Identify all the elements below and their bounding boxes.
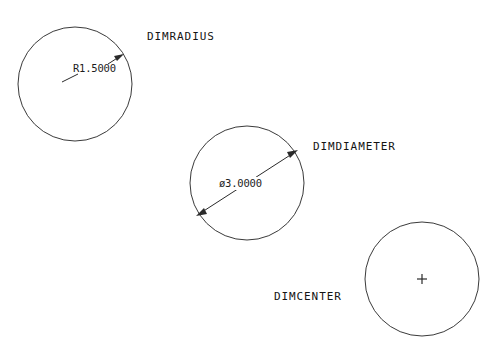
radius-circle <box>18 27 132 141</box>
diameter-figure: ø3.0000 DIMDIAMETER <box>190 126 396 240</box>
diameter-dimension-text: ø3.0000 <box>219 177 262 189</box>
dimcenter-command-label: DIMCENTER <box>274 290 342 303</box>
radius-leader-tail <box>62 74 78 82</box>
drawing-canvas: R1.5000 DIMRADIUS ø3.0000 DIMDIAMETER DI… <box>0 0 495 341</box>
dimradius-command-label: DIMRADIUS <box>147 30 215 43</box>
radius-figure: R1.5000 DIMRADIUS <box>18 27 215 141</box>
radius-arrow-head <box>114 54 124 61</box>
center-figure: DIMCENTER <box>274 222 479 336</box>
radius-dimension-text: R1.5000 <box>73 62 116 74</box>
dimdiameter-command-label: DIMDIAMETER <box>313 140 396 153</box>
cad-drawing: R1.5000 DIMRADIUS ø3.0000 DIMDIAMETER DI… <box>0 0 495 341</box>
